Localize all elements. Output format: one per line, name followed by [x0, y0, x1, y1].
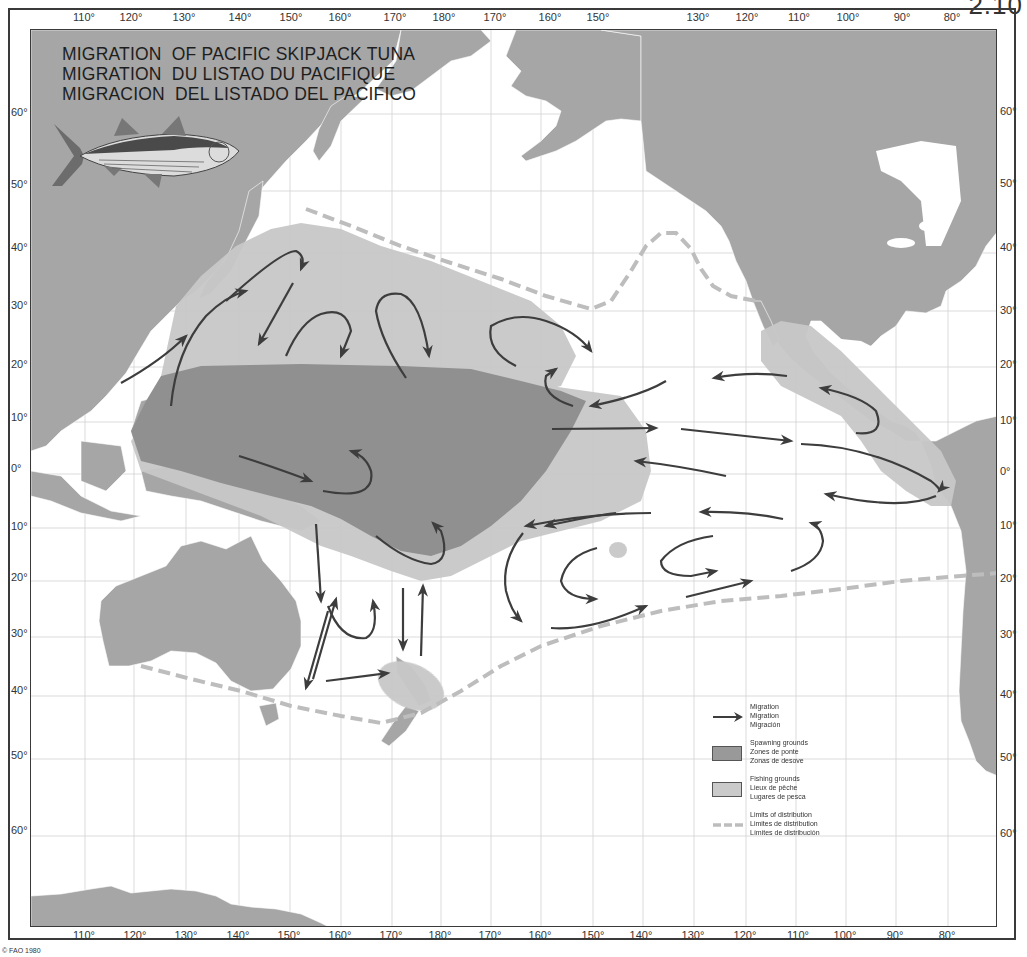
latitude-label: 40°: [11, 241, 28, 253]
title-french: MIGRATION DU LISTAO DU PACIFIQUE: [62, 64, 416, 84]
latitude-label: 40°: [11, 684, 28, 696]
longitude-label: 120°: [124, 929, 147, 941]
longitude-label: 80°: [944, 11, 961, 23]
latitude-label: 30°: [11, 299, 28, 311]
longitude-label: 100°: [834, 929, 857, 941]
antarctica: [31, 886, 331, 927]
longitude-label: 160°: [329, 929, 352, 941]
longitude-label: 170°: [484, 11, 507, 23]
latitude-label: 30°: [1000, 304, 1017, 316]
legend: Migration Migration Migración Spawning g…: [712, 702, 862, 846]
legend-fishing-en: Fishing grounds: [750, 774, 806, 783]
longitude-label: 170°: [479, 929, 502, 941]
borneo: [81, 441, 126, 491]
latitude-label: 20°: [1000, 572, 1017, 584]
legend-spawning-es: Zonas de desove: [750, 756, 808, 765]
legend-limits: Limits of distribution Limites de distri…: [712, 810, 862, 842]
latitude-label: 50°: [11, 178, 28, 190]
longitude-label: 120°: [734, 929, 757, 941]
legend-fishing: Fishing grounds Lieux de pêche Lugares d…: [712, 774, 862, 806]
legend-fishing-fr: Lieux de pêche: [750, 783, 806, 792]
latitude-label: 0°: [11, 462, 22, 474]
longitude-label: 160°: [529, 929, 552, 941]
longitude-label: 140°: [630, 929, 653, 941]
longitude-label: 120°: [120, 11, 143, 23]
longitude-label: 90°: [887, 929, 904, 941]
longitude-label: 120°: [736, 11, 759, 23]
longitude-label: 140°: [229, 11, 252, 23]
latitude-label: 40°: [1000, 688, 1017, 700]
longitude-label: 110°: [73, 11, 95, 23]
longitude-label: 150°: [582, 929, 605, 941]
dashed-line-icon: [712, 818, 744, 832]
skipjack-tuna-illustration: [44, 116, 244, 196]
longitude-label: 110°: [73, 929, 95, 941]
australia: [99, 536, 301, 691]
legend-limits-en: Limits of distribution: [750, 810, 820, 819]
longitude-label: 180°: [429, 929, 452, 941]
longitude-label: 170°: [384, 11, 407, 23]
fishing-swatch: [712, 782, 742, 797]
longitude-label: 100°: [837, 11, 860, 23]
legend-migration: Migration Migration Migración: [712, 702, 862, 734]
legend-limits-fr: Limites de distribution: [750, 819, 820, 828]
latitude-label: 30°: [11, 627, 28, 639]
latitude-label: 10°: [1000, 519, 1017, 531]
legend-limits-es: Límites de distribución: [750, 828, 820, 837]
legend-migration-fr: Migration: [750, 711, 780, 720]
longitude-label: 140°: [227, 929, 250, 941]
legend-migration-es: Migración: [750, 720, 780, 729]
latitude-label: 50°: [11, 749, 28, 761]
longitude-label: 170°: [380, 929, 403, 941]
alaska: [506, 30, 641, 161]
latitude-label: 60°: [11, 106, 28, 118]
latitude-label: 60°: [1000, 105, 1017, 117]
legend-spawning-en: Spawning grounds: [750, 738, 808, 747]
copyright: © FAO 1980: [2, 947, 41, 954]
longitude-label: 80°: [939, 929, 956, 941]
longitude-label: 150°: [280, 11, 303, 23]
legend-spawning: Spawning grounds Zones de ponte Zonas de…: [712, 738, 862, 770]
longitude-label: 180°: [433, 11, 456, 23]
latitude-label: 50°: [1000, 751, 1017, 763]
latitude-label: 20°: [1000, 358, 1017, 370]
latitude-label: 10°: [11, 411, 28, 423]
new-zealand-south: [381, 706, 419, 746]
migration-arrow-icon: [712, 710, 744, 724]
latitude-label: 20°: [11, 358, 28, 370]
latitude-label: 60°: [1000, 827, 1017, 839]
latitude-label: 20°: [11, 571, 28, 583]
tasmania: [259, 703, 279, 726]
longitude-label: 150°: [587, 11, 610, 23]
latitude-label: 10°: [1000, 414, 1017, 426]
longitude-label: 90°: [894, 11, 911, 23]
longitude-label: 130°: [175, 929, 198, 941]
longitude-label: 160°: [329, 11, 352, 23]
legend-migration-en: Migration: [750, 702, 780, 711]
longitude-label: 150°: [278, 929, 301, 941]
longitude-label: 110°: [787, 929, 809, 941]
legend-spawning-fr: Zones de ponte: [750, 747, 808, 756]
title-english: MIGRATION OF PACIFIC SKIPJACK TUNA: [62, 44, 416, 64]
title-spanish: MIGRACION DEL LISTADO DEL PACIFICO: [62, 84, 416, 104]
latitude-label: 10°: [11, 520, 28, 532]
longitude-label: 110°: [788, 11, 810, 23]
legend-fishing-es: Lugares de pesca: [750, 792, 806, 801]
latitude-label: 60°: [11, 824, 28, 836]
latitude-label: 40°: [1000, 241, 1017, 253]
latitude-label: 0°: [1000, 465, 1011, 477]
latitude-label: 30°: [1000, 628, 1017, 640]
longitude-label: 130°: [682, 929, 705, 941]
longitude-label: 130°: [687, 11, 710, 23]
longitude-label: 130°: [173, 11, 196, 23]
spawning-swatch: [712, 746, 742, 761]
latitude-label: 50°: [1000, 177, 1017, 189]
longitude-label: 160°: [539, 11, 562, 23]
map-title: MIGRATION OF PACIFIC SKIPJACK TUNA MIGRA…: [62, 44, 416, 104]
